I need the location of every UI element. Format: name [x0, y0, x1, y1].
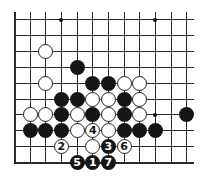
black-stone-move-5: 5: [70, 155, 85, 170]
grid-line-vertical: [77, 12, 78, 164]
grid-line-horizontal: [15, 67, 195, 68]
white-stone: [38, 44, 53, 59]
black-stone: [85, 76, 100, 91]
black-stone: [179, 107, 194, 122]
white-stone: [101, 107, 116, 122]
black-stone: [148, 123, 163, 138]
black-stone-move-7: 7: [101, 155, 116, 170]
grid-line-horizontal: [15, 19, 195, 20]
white-stone: [101, 92, 116, 107]
white-stone: [38, 107, 53, 122]
black-stone: [117, 107, 132, 122]
black-stone: [132, 123, 147, 138]
white-stone-move-4: 4: [85, 123, 100, 138]
black-stone: [85, 107, 100, 122]
white-stone: [132, 92, 147, 107]
grid-line-vertical: [186, 12, 187, 164]
black-stone-move-3: 3: [101, 139, 116, 154]
white-stone: [38, 76, 53, 91]
star-point: [153, 18, 157, 22]
white-stone: [132, 107, 147, 122]
grid-line-vertical: [30, 12, 31, 164]
black-stone-move-1: 1: [85, 155, 100, 170]
grid-line-vertical: [171, 12, 172, 164]
black-stone: [23, 123, 38, 138]
go-board: 4236517: [0, 0, 208, 185]
white-stone: [23, 107, 38, 122]
star-point: [153, 113, 157, 117]
black-stone: [117, 92, 132, 107]
black-stone: [38, 123, 53, 138]
black-stone: [54, 123, 69, 138]
white-stone-move-2: 2: [54, 139, 69, 154]
grid-line-vertical: [155, 12, 156, 164]
white-stone: [85, 92, 100, 107]
black-stone: [54, 92, 69, 107]
white-stone: [70, 107, 85, 122]
black-stone: [54, 107, 69, 122]
white-stone: [117, 76, 132, 91]
black-stone: [70, 92, 85, 107]
black-stone: [70, 60, 85, 75]
black-stone: [101, 76, 116, 91]
black-stone: [117, 123, 132, 138]
grid-line-horizontal: [15, 35, 195, 36]
white-stone-move-6: 6: [117, 139, 132, 154]
white-stone: [132, 76, 147, 91]
white-stone: [70, 123, 85, 138]
white-stone: [85, 139, 100, 154]
board-left-edge: [14, 12, 16, 164]
white-stone: [101, 123, 116, 138]
